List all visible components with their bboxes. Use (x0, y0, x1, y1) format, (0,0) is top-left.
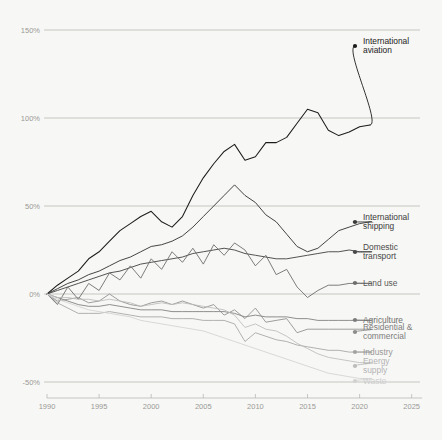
x-tick-label: 1995 (91, 402, 108, 411)
x-tick-label: 2020 (351, 402, 368, 411)
y-tick-label: 0% (29, 290, 40, 299)
leader-line (353, 46, 373, 125)
series-label-waste: Waste (363, 376, 387, 386)
x-tick-label: 2010 (247, 402, 264, 411)
series-line-industry (47, 294, 370, 352)
y-tick-label: 150% (21, 26, 41, 35)
x-tick-label: 2005 (195, 402, 212, 411)
x-tick-label: 2000 (143, 402, 160, 411)
series-line-energy-supply (47, 294, 370, 363)
series-label-energy-supply: Energysupply (363, 356, 390, 375)
chart-svg: 150%100%50%0%-50% 1990199520002005201020… (0, 0, 442, 440)
y-tick-label: 50% (25, 202, 40, 211)
x-tick-label: 2015 (299, 402, 316, 411)
x-axis (47, 394, 422, 398)
x-tick-label: 1990 (39, 402, 56, 411)
series-label-residential-commercial: Residential &commercial (363, 322, 413, 341)
x-tick-labels: 19901995200020052010201520202025 (39, 402, 420, 411)
series-lines (47, 109, 370, 378)
series-labels: InternationalaviationInternationalshippi… (363, 36, 413, 386)
series-label-international-aviation: Internationalaviation (363, 36, 409, 55)
y-tick-labels: 150%100%50%0%-50% (21, 26, 41, 387)
series-label-land-use: Land use (363, 278, 398, 288)
y-tick-label: -50% (22, 378, 40, 387)
emissions-change-chart: 150%100%50%0%-50% 1990199520002005201020… (0, 0, 442, 440)
series-label-domestic-transport: Domestictransport (363, 242, 398, 261)
series-line-land-use (47, 243, 370, 305)
x-tick-label: 2025 (403, 402, 420, 411)
series-line-international-aviation (47, 109, 370, 294)
series-label-international-shipping: Internationalshipping (363, 212, 409, 231)
y-tick-label: 100% (21, 114, 41, 123)
